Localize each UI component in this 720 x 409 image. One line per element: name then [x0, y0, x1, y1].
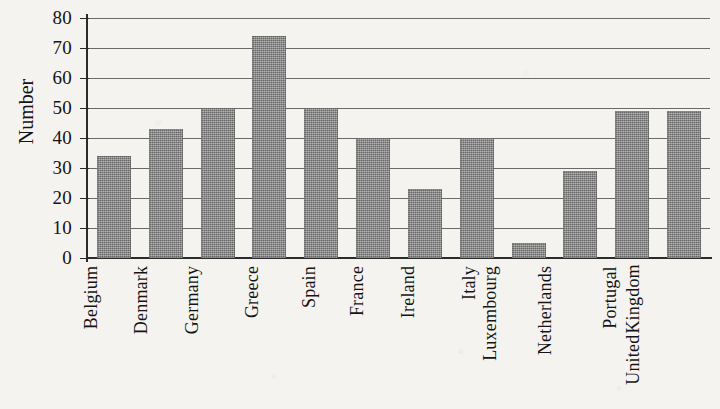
- x-axis-tick-label-slot: Netherlands: [555, 262, 607, 409]
- bar[interactable]: [512, 243, 546, 258]
- x-axis-tick-labels: BelgiumDenmarkGermanyGreeceSpainFranceIr…: [88, 262, 710, 409]
- x-axis-tick-label: UnitedKingdom: [624, 264, 720, 385]
- y-axis-tick-mark: [80, 78, 89, 79]
- bar-series: [88, 18, 710, 258]
- y-axis-tick-mark: [80, 168, 89, 169]
- x-axis-tick-label-slot: Spain: [295, 262, 347, 409]
- x-axis-tick-label-slot: UnitedKingdom: [658, 262, 710, 409]
- bar[interactable]: [356, 138, 390, 258]
- y-axis-tick-labels: 80706050403020100: [0, 0, 78, 409]
- x-axis-tick-label-line: United: [624, 335, 720, 385]
- bar[interactable]: [97, 156, 131, 258]
- bar-slot: [606, 18, 658, 258]
- bar-slot: [503, 18, 555, 258]
- y-axis-tick-mark: [80, 258, 89, 259]
- bar[interactable]: [304, 108, 338, 258]
- plot-area: [88, 18, 710, 258]
- x-axis-tick-label-slot: Germany: [192, 262, 244, 409]
- bar[interactable]: [563, 171, 597, 258]
- bar[interactable]: [201, 108, 235, 258]
- bar-slot: [347, 18, 399, 258]
- y-axis-tick-label: 80: [0, 8, 72, 27]
- y-axis-tick-label: 10: [0, 218, 72, 237]
- bar-slot: [451, 18, 503, 258]
- bar-slot: [244, 18, 296, 258]
- y-axis-tick-label: 0: [0, 248, 72, 267]
- bar-slot: [555, 18, 607, 258]
- bar[interactable]: [149, 129, 183, 258]
- x-axis-tick-label-slot: France: [347, 262, 399, 409]
- bar[interactable]: [408, 189, 442, 258]
- bar-slot: [399, 18, 451, 258]
- y-axis-tick-mark: [80, 48, 89, 49]
- y-axis-tick-label: 20: [0, 188, 72, 207]
- y-axis-tick-mark: [80, 198, 89, 199]
- y-axis-title: Number: [15, 42, 38, 182]
- y-axis-tick-mark: [80, 108, 89, 109]
- bar[interactable]: [460, 138, 494, 258]
- y-axis-tick-mark: [80, 138, 89, 139]
- bar[interactable]: [615, 111, 649, 258]
- bar-slot: [192, 18, 244, 258]
- bar-slot: [140, 18, 192, 258]
- bar-chart: 80706050403020100 Number BelgiumDenmarkG…: [0, 0, 720, 409]
- bar-slot: [658, 18, 710, 258]
- y-axis-tick-mark: [80, 228, 89, 229]
- x-axis-tick-label-line: Kingdom: [624, 264, 720, 333]
- x-axis-tick-label-slot: Ireland: [399, 262, 451, 409]
- bar-slot: [295, 18, 347, 258]
- bar[interactable]: [252, 36, 286, 258]
- bar-slot: [88, 18, 140, 258]
- x-axis-tick-label-slot: Greece: [244, 262, 296, 409]
- y-axis-tick-mark: [80, 18, 89, 19]
- bar[interactable]: [667, 111, 701, 258]
